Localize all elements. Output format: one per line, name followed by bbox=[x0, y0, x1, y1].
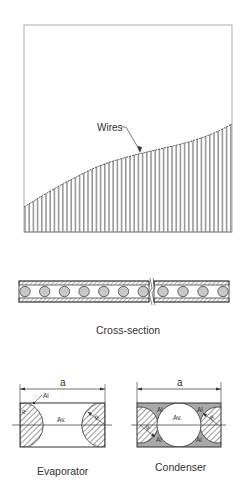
wire-profile-panel: Wires bbox=[24, 25, 232, 232]
vapor-label: Av. bbox=[173, 414, 182, 421]
cross-section-strip bbox=[19, 278, 229, 305]
wire-bundle-icon bbox=[59, 286, 69, 296]
wire-bundle-icon bbox=[138, 286, 148, 296]
evaporator-caption: Evaporator bbox=[37, 465, 89, 477]
arrowhead-icon bbox=[137, 388, 142, 391]
al-label-top-left: Al bbox=[157, 406, 163, 413]
al-label-bottom-right: Al bbox=[196, 436, 202, 443]
strip-bottom-wall-left bbox=[19, 298, 149, 302]
al-label-bottom-left: Al bbox=[156, 436, 162, 443]
cross-section-caption: Cross-section bbox=[96, 324, 160, 336]
wire-bundle-icon bbox=[178, 286, 188, 296]
arrowhead-icon bbox=[100, 388, 105, 391]
wire-bundle-icon bbox=[198, 286, 208, 296]
wire-bundle-icon bbox=[218, 286, 228, 296]
dimension-label: a bbox=[60, 377, 66, 388]
wire-bundle-icon bbox=[118, 286, 128, 296]
wires-label: Wires bbox=[97, 122, 123, 133]
strip-bottom-wall-right bbox=[154, 298, 229, 302]
arrowhead-icon bbox=[20, 388, 25, 391]
figure-canvas: Wires Cross-section a bbox=[0, 0, 250, 495]
al-label-top-right: Al bbox=[197, 406, 203, 413]
condenser-diagram: a Al Al Al Al Av. R R bbox=[122, 377, 236, 447]
wire-bundle-icon bbox=[158, 286, 168, 296]
wire-bundle-icon bbox=[40, 286, 50, 296]
dimension-label: a bbox=[177, 377, 183, 388]
strip-wire-bundles bbox=[20, 286, 228, 296]
evaporator-diagram: a Al Av. R R bbox=[12, 377, 112, 447]
wire-bundle-icon bbox=[20, 286, 30, 296]
al-label: Al bbox=[43, 392, 49, 399]
wire-bundle-icon bbox=[79, 286, 89, 296]
al-leader-line bbox=[34, 395, 42, 403]
strip-top-wall-right bbox=[154, 281, 229, 285]
strip-top-wall-left bbox=[19, 281, 149, 285]
vapor-label: Av. bbox=[57, 416, 66, 423]
wire-bundle-icon bbox=[99, 286, 109, 296]
condenser-caption: Condenser bbox=[155, 461, 207, 473]
leader-dot-icon bbox=[33, 402, 36, 405]
arrowhead-icon bbox=[216, 388, 221, 391]
